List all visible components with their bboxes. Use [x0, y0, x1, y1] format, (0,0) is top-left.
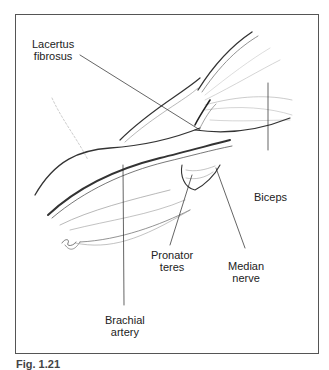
label-brachial-artery: Brachial artery [105, 314, 145, 338]
label-pronator-teres: Pronator teres [151, 249, 193, 273]
label-line: teres [151, 261, 193, 273]
label-line: Biceps [254, 191, 287, 203]
label-line: fibrosus [32, 50, 74, 62]
label-biceps: Biceps [254, 191, 287, 203]
figure-caption: Fig. 1.21 [16, 358, 60, 370]
label-line: nerve [228, 272, 264, 284]
label-line: Brachial [105, 314, 145, 326]
label-line: Pronator [151, 249, 193, 261]
label-median-nerve: Median nerve [228, 260, 264, 284]
label-line: artery [105, 326, 145, 338]
label-lacertus-fibrosus: Lacertus fibrosus [32, 38, 74, 62]
label-line: Median [228, 260, 264, 272]
label-line: Lacertus [32, 38, 74, 50]
